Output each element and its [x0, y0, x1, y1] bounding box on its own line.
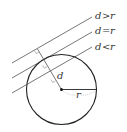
radius-label: r	[76, 89, 82, 100]
distance-label: d	[57, 70, 63, 81]
right-angle-marker-secant	[51, 80, 56, 83]
line-circle-diagram: d r d > r d = r d < r	[0, 0, 127, 132]
label-outside: d > r	[95, 10, 116, 21]
right-angle-marker-tangent	[43, 65, 48, 68]
line-secant	[12, 47, 92, 93]
svg-text:d: d	[95, 10, 101, 21]
label-tangent: d = r	[95, 25, 116, 36]
svg-text:d: d	[95, 25, 101, 36]
svg-text:d: d	[95, 41, 101, 52]
svg-text:r: r	[110, 41, 116, 52]
svg-text:r: r	[110, 10, 116, 21]
label-secant: d < r	[95, 41, 116, 52]
line-tangent	[12, 32, 92, 78]
svg-text:r: r	[110, 25, 116, 36]
